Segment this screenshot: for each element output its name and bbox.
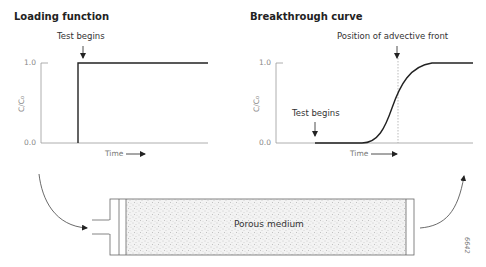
inlet-pipe-gap bbox=[91, 220, 111, 234]
advective-front-label: Position of advective front bbox=[337, 31, 448, 41]
y-tick-label-0: 0.0 bbox=[24, 138, 36, 147]
y-axis-label: C/C₀ bbox=[17, 96, 26, 112]
test-begins-label: Test begins bbox=[292, 108, 340, 118]
figure-number: 6642 bbox=[463, 237, 471, 254]
breakthrough-curve-title: Breakthrough curve bbox=[250, 11, 363, 22]
step-function-line bbox=[78, 63, 208, 143]
breakthrough-curve-chart bbox=[276, 46, 473, 154]
x-axis-label: Time bbox=[105, 149, 123, 158]
y-tick-label-1: 1.0 bbox=[259, 58, 271, 67]
loading-function-title: Loading function bbox=[14, 11, 109, 22]
y-tick-label-0: 0.0 bbox=[259, 138, 271, 147]
outflow-arrow-icon bbox=[420, 176, 464, 228]
porous-medium-label: Porous medium bbox=[234, 219, 304, 229]
y-axis-label: C/C₀ bbox=[252, 96, 261, 112]
loading-function-chart bbox=[41, 46, 208, 154]
breakthrough-curve-line bbox=[315, 63, 473, 143]
inflow-arrow-icon bbox=[39, 174, 87, 228]
x-axis-label: Time bbox=[350, 149, 368, 158]
test-begins-label: Test begins bbox=[57, 31, 105, 41]
y-tick-label-1: 1.0 bbox=[24, 58, 36, 67]
